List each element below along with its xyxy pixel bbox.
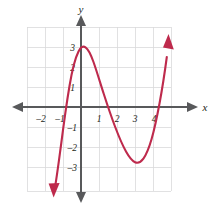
- x-tick-label-1: 1: [97, 114, 102, 124]
- y-tick-label--3: –3: [67, 163, 78, 173]
- graph-figure: –2 –1 1 2 3 4 3 2 1 –1 –2 –3 y x: [0, 0, 212, 203]
- x-tick-label-2: 2: [115, 114, 120, 124]
- y-tick-label-3: 3: [69, 43, 75, 53]
- y-tick-label-1: 1: [70, 83, 75, 93]
- y-tick-label--2: –2: [67, 143, 78, 153]
- x-tick-label-3: 3: [132, 114, 138, 124]
- y-axis-label: y: [78, 3, 84, 15]
- x-tick-label--2: –2: [35, 114, 46, 124]
- cubic-function-plot: –2 –1 1 2 3 4 3 2 1 –1 –2 –3 y x: [0, 0, 212, 203]
- y-tick-label--1: –1: [67, 123, 78, 133]
- x-axis-label: x: [202, 101, 208, 113]
